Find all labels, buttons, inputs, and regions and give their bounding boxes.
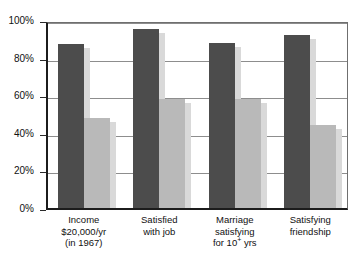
- x-axis-label-line: Satisfied: [122, 214, 198, 226]
- bar-chart: 100%80%60%40%20%0% Income$20,000/yr(in 1…: [0, 0, 358, 262]
- y-axis-tick-label: 20%: [14, 166, 34, 176]
- bar-light: [235, 99, 261, 208]
- x-axis-group-label: Satisfiedwith job: [122, 214, 198, 237]
- plot-area: [46, 22, 348, 210]
- x-axis-label-line: Satisfying: [273, 214, 349, 226]
- y-axis-labels: 100%80%60%40%20%0%: [0, 0, 42, 262]
- bar-light: [310, 125, 336, 208]
- bars-layer: [48, 23, 347, 208]
- x-axis-label-line: for 10+ yrs: [197, 237, 273, 249]
- y-axis-tick-label: 100%: [8, 16, 34, 26]
- x-axis-label-line: (in 1967): [46, 237, 122, 249]
- x-axis-label-line: $20,000/yr: [46, 226, 122, 238]
- bar-dark: [133, 29, 159, 208]
- x-axis-group-label: Marriagesatisfyingfor 10+ yrs: [197, 214, 273, 249]
- bar-light: [159, 99, 185, 208]
- y-axis-tick-label: 40%: [14, 129, 34, 139]
- x-axis-label-line: with job: [122, 226, 198, 238]
- x-axis-group-label: Satisfyingfriendship: [273, 214, 349, 237]
- y-axis-tick-label: 0%: [20, 204, 34, 214]
- y-axis-tick-mark: [40, 210, 46, 211]
- bar-dark: [209, 43, 235, 208]
- y-axis-tick-label: 60%: [14, 91, 34, 101]
- bar-dark: [284, 35, 310, 208]
- y-axis-tick-label: 80%: [14, 54, 34, 64]
- x-axis-labels: Income$20,000/yr(in 1967)Satisfiedwith j…: [46, 214, 348, 262]
- x-axis-label-line: friendship: [273, 226, 349, 238]
- bar-light: [84, 118, 110, 208]
- bar-dark: [58, 44, 84, 208]
- x-axis-label-line: Income: [46, 214, 122, 226]
- x-axis-group-label: Income$20,000/yr(in 1967): [46, 214, 122, 249]
- x-axis-label-line: satisfying: [197, 226, 273, 238]
- x-axis-label-line: Marriage: [197, 214, 273, 226]
